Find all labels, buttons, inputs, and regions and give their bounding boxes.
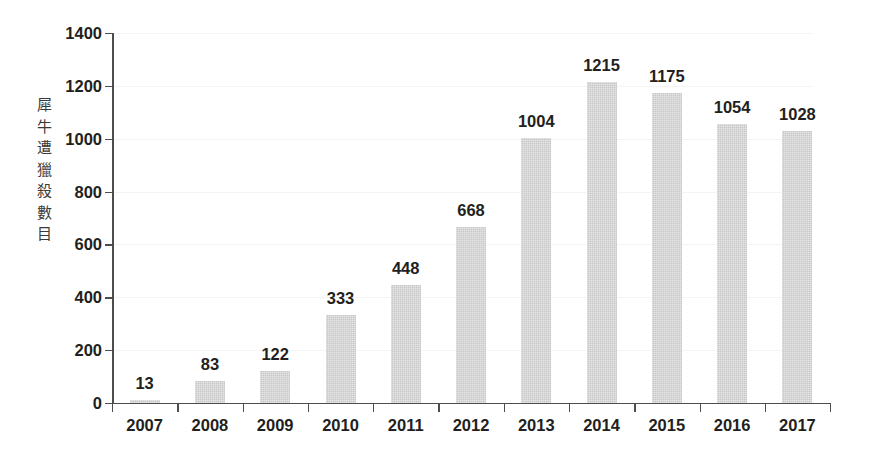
bar-value-label: 122 bbox=[261, 345, 289, 364]
bar-value-label: 83 bbox=[201, 355, 219, 374]
bar bbox=[587, 82, 617, 403]
y-tick-label: 0 bbox=[93, 394, 102, 413]
y-tick-label: 600 bbox=[74, 235, 102, 254]
x-tick-label: 2012 bbox=[453, 416, 490, 435]
y-tick-label: 1200 bbox=[65, 76, 102, 95]
bar-value-label: 448 bbox=[392, 259, 420, 278]
x-tick-label: 2011 bbox=[388, 416, 424, 435]
x-tick-label: 2017 bbox=[779, 416, 816, 435]
x-tick-label: 2014 bbox=[583, 416, 620, 435]
x-tick-mark bbox=[700, 403, 701, 412]
x-tick-label: 2007 bbox=[126, 416, 163, 435]
bar bbox=[521, 138, 551, 403]
y-tick-label: 1400 bbox=[65, 24, 102, 43]
x-tick-mark bbox=[308, 403, 309, 412]
bar-value-label: 333 bbox=[327, 289, 355, 308]
x-tick-label: 2008 bbox=[192, 416, 229, 435]
x-tick-mark bbox=[765, 403, 766, 412]
x-tick-mark bbox=[373, 403, 374, 412]
bar-value-label: 1054 bbox=[714, 98, 751, 117]
y-tick-label: 200 bbox=[74, 341, 102, 360]
x-tick-label: 2015 bbox=[648, 416, 685, 435]
bar bbox=[195, 381, 225, 403]
x-tick-label: 2016 bbox=[714, 416, 751, 435]
bar-value-label: 1175 bbox=[649, 67, 685, 86]
y-tick-label: 800 bbox=[74, 182, 102, 201]
bar-value-label: 13 bbox=[135, 374, 153, 393]
x-tick-mark bbox=[634, 403, 635, 412]
bar-chart: 犀 牛 遭 獵 殺 數 目 0200400600800100012001400 … bbox=[0, 0, 870, 463]
x-tick-mark bbox=[177, 403, 178, 412]
bar bbox=[717, 124, 747, 403]
bar-value-label: 668 bbox=[457, 201, 485, 220]
bar-value-label: 1215 bbox=[583, 56, 620, 75]
x-tick-mark bbox=[243, 403, 244, 412]
x-tick-mark bbox=[112, 403, 113, 412]
bar-value-label: 1028 bbox=[779, 105, 816, 124]
x-tick-mark bbox=[438, 403, 439, 412]
x-tick-label: 2010 bbox=[322, 416, 359, 435]
bar bbox=[326, 315, 356, 403]
bar bbox=[782, 131, 812, 403]
x-tick-label: 2009 bbox=[257, 416, 294, 435]
x-tick-mark bbox=[569, 403, 570, 412]
x-tick-label: 2013 bbox=[518, 416, 555, 435]
y-tick-label: 1000 bbox=[65, 129, 102, 148]
bar bbox=[391, 285, 421, 403]
x-tick-mark bbox=[830, 403, 831, 412]
bar bbox=[456, 227, 486, 404]
bar bbox=[652, 93, 682, 404]
y-tick-label: 400 bbox=[74, 288, 102, 307]
bar bbox=[260, 371, 290, 403]
x-axis-line bbox=[112, 403, 830, 405]
bar-value-label: 1004 bbox=[518, 112, 555, 131]
x-tick-mark bbox=[504, 403, 505, 412]
y-axis-title: 犀 牛 遭 獵 殺 數 目 bbox=[30, 95, 58, 246]
